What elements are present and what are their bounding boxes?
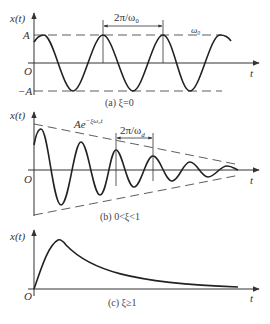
panel-b-envelope-label: Ae−ξω₀t xyxy=(74,118,103,130)
panel-c xyxy=(28,230,259,296)
panel-a-t-axis-label: t xyxy=(250,68,253,79)
panel-c-y-axis-label: x(t) xyxy=(10,231,25,242)
panel-b-y-axis-label: x(t) xyxy=(10,110,25,121)
panel-a-y-axis-label: x(t) xyxy=(10,13,25,24)
panel-b-caption: (b) 0<ξ<1 xyxy=(100,212,140,222)
panel-a-amplitude-neg-label: −A xyxy=(18,86,32,97)
envelope-base: Ae xyxy=(74,118,86,130)
envelope-lower xyxy=(34,175,240,215)
panel-c-caption: (c) ξ≥1 xyxy=(108,298,137,308)
period-subscript: d xyxy=(141,131,145,139)
panel-a-period-label: 2π/ω₀ xyxy=(114,12,139,23)
panel-a-caption: (a) ξ=0 xyxy=(105,98,134,108)
panel-b-period-label: 2π/ωd xyxy=(120,125,145,139)
overdamped-curve xyxy=(34,240,238,289)
underdamped-curve xyxy=(34,129,238,205)
envelope-exponent: −ξω₀t xyxy=(86,117,103,125)
damped-vibration-diagram xyxy=(0,0,270,324)
panel-b-t-axis-label: t xyxy=(250,175,253,186)
panel-a-frequency-label: ω₀ xyxy=(191,26,200,35)
panel-b-origin-label: O xyxy=(24,174,32,185)
panel-a-amplitude-pos-label: A xyxy=(23,30,30,41)
panel-a xyxy=(28,13,259,95)
panel-c-t-axis-label: t xyxy=(250,293,253,304)
period-text: 2π/ω xyxy=(120,124,141,136)
panel-a-origin-label: O xyxy=(24,66,32,77)
panel-c-origin-label: O xyxy=(24,291,32,302)
